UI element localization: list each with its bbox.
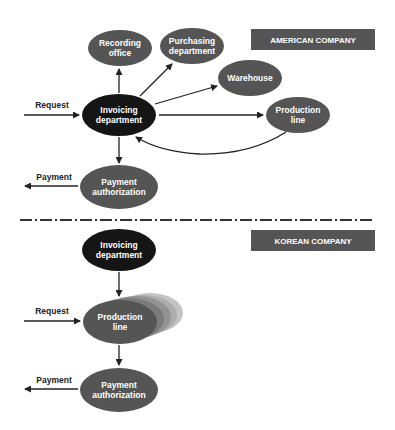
svg-text:line: line [113, 322, 128, 332]
svg-text:department: department [169, 46, 215, 56]
node-payment-authorization: Payment authorization [80, 165, 158, 209]
korean-company-banner-text: KOREAN COMPANY [274, 237, 352, 246]
svg-text:Recording: Recording [99, 38, 141, 48]
svg-text:Payment: Payment [101, 380, 137, 390]
svg-text:Invoicing: Invoicing [100, 240, 137, 250]
svg-text:department: department [96, 115, 142, 125]
korean-node-production-line-stack: Production line [83, 293, 183, 344]
korean-payment-label: Payment [36, 375, 72, 385]
korean-node-payment-authorization: Payment authorization [80, 368, 158, 412]
arrow-to-purchasing [140, 64, 172, 96]
node-invoicing-department: Invoicing department [82, 94, 156, 136]
diagram-canvas: AMERICAN COMPANY Request Payment Recordi… [0, 0, 395, 430]
svg-text:line: line [291, 115, 306, 125]
request-label: Request [35, 100, 69, 110]
svg-text:Production: Production [276, 105, 321, 115]
korean-section: KOREAN COMPANY Request Payment Invoicing… [24, 229, 375, 412]
node-production-line: Production line [266, 97, 330, 133]
korean-node-invoicing-department: Invoicing department [82, 229, 156, 271]
svg-text:Production: Production [98, 312, 143, 322]
svg-text:Invoicing: Invoicing [100, 105, 137, 115]
svg-text:Payment: Payment [101, 177, 137, 187]
node-warehouse: Warehouse [218, 60, 282, 96]
arrow-to-warehouse [155, 86, 217, 104]
payment-label: Payment [36, 172, 72, 182]
node-purchasing-department: Purchasing department [160, 28, 224, 64]
american-company-banner-text: AMERICAN COMPANY [270, 36, 356, 45]
node-recording-office: Recording office [88, 30, 152, 66]
svg-text:authorization: authorization [92, 390, 145, 400]
svg-text:office: office [109, 48, 132, 58]
korean-request-label: Request [35, 306, 69, 316]
return-arrow-from-production [136, 132, 286, 154]
svg-text:Warehouse: Warehouse [227, 73, 273, 83]
svg-text:authorization: authorization [92, 187, 145, 197]
american-section: AMERICAN COMPANY Request Payment Recordi… [24, 28, 375, 209]
svg-text:department: department [96, 250, 142, 260]
svg-text:Purchasing: Purchasing [169, 36, 215, 46]
